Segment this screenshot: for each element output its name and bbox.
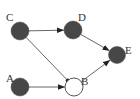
node-c	[11, 22, 29, 40]
node-label-a: A	[6, 72, 14, 84]
node-label-c: C	[6, 11, 13, 23]
directed-graph: CDEAB	[0, 0, 140, 99]
edge-c-to-b	[26, 37, 68, 80]
node-label-d: D	[78, 11, 86, 23]
edges-layer	[26, 30, 110, 87]
node-e	[109, 47, 126, 64]
node-label-e: E	[125, 44, 132, 56]
edge-c-to-d	[29, 30, 64, 31]
node-d	[64, 21, 82, 39]
nodes-layer: CDEAB	[6, 11, 132, 96]
node-label-b: B	[81, 75, 88, 87]
edge-d-to-e	[81, 34, 110, 50]
